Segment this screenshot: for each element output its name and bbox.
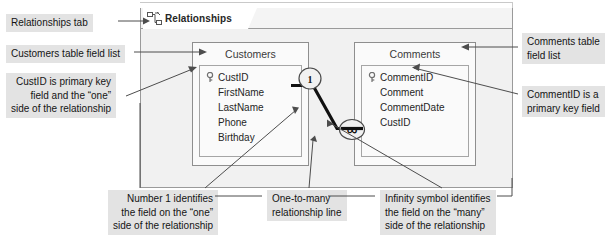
field-label: CommentDate — [380, 100, 444, 115]
relationships-icon — [147, 12, 162, 25]
callout-relationships-tab: Relationships tab — [6, 14, 93, 32]
field-label: Phone — [218, 115, 247, 130]
field-list-body-comments: CommentID Comment CommentDate CustID — [361, 65, 469, 157]
field-row-phone[interactable]: Phone — [204, 115, 301, 130]
field-row-comment[interactable]: Comment — [366, 85, 468, 100]
field-label: LastName — [218, 100, 264, 115]
callout-custid-primary-key: CustID is primary key field and the “one… — [6, 73, 116, 118]
tab-label: Relationships — [165, 13, 232, 24]
callout-number-one: Number 1 identifies the field on the “on… — [108, 190, 218, 235]
key-icon — [205, 72, 215, 83]
field-row-custid-fk[interactable]: CustID — [366, 115, 468, 130]
field-row-custid[interactable]: CustID — [204, 70, 301, 85]
callout-infinity-symbol: Infinity symbol identifies the field on … — [380, 190, 496, 235]
callout-commentid-primary-key: CommentID is a primary key field — [522, 86, 605, 117]
field-list-customers[interactable]: Customers CustID FirstName — [192, 42, 309, 166]
field-label: CustID — [218, 70, 249, 85]
key-icon — [367, 72, 377, 83]
callout-one-to-many: One-to-many relationship line — [267, 190, 347, 221]
tab-relationships[interactable]: Relationships — [143, 8, 248, 29]
field-label: CustID — [380, 115, 411, 130]
field-list-comments[interactable]: Comments CommentID Comment — [354, 42, 476, 166]
callout-customers-field-list: Customers table field list — [6, 45, 125, 63]
field-row-commentdate[interactable]: CommentDate — [366, 100, 468, 115]
field-list-title-customers: Customers — [193, 43, 308, 65]
relationships-canvas[interactable]: Customers CustID FirstName — [141, 29, 512, 187]
field-label: Birthday — [218, 130, 255, 145]
tab-strip: Relationships — [141, 8, 512, 29]
field-list-body-customers: CustID FirstName LastName Phone Birthday — [199, 65, 302, 157]
field-label: CommentID — [380, 70, 433, 85]
field-row-firstname[interactable]: FirstName — [204, 85, 301, 100]
field-row-commentid[interactable]: CommentID — [366, 70, 468, 85]
callout-comments-field-list: Comments table field list — [522, 33, 605, 64]
field-list-title-comments: Comments — [355, 43, 475, 65]
relationships-window: Relationships Customers — [140, 8, 513, 188]
field-label: FirstName — [218, 85, 264, 100]
field-row-lastname[interactable]: LastName — [204, 100, 301, 115]
field-label: Comment — [380, 85, 423, 100]
figure-root: Relationships Customers — [0, 0, 609, 244]
field-row-birthday[interactable]: Birthday — [204, 130, 301, 145]
